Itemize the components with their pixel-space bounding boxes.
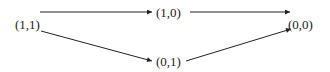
node-0-1: (0,1) <box>156 55 181 68</box>
edge-11-to-01 <box>41 31 152 61</box>
edge-01-to-00 <box>186 29 291 61</box>
node-1-1: (1,1) <box>15 18 40 31</box>
node-1-0: (1,0) <box>156 6 181 19</box>
node-0-0: (0,0) <box>288 18 313 31</box>
